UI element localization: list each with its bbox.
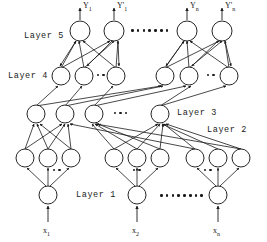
node-layer4-5 (180, 67, 198, 85)
output-label-yn: Yn (190, 1, 199, 12)
node-layer2-8 (209, 149, 227, 167)
node-layer2-7 (186, 149, 204, 167)
ellipsis-layer4-left (97, 74, 105, 76)
node-layer2-4 (105, 149, 123, 167)
ellipsis-layer1 (160, 194, 203, 197)
neural-network-diagram: Layer 5 Layer 4 Layer 3 Layer 2 Layer 1 … (0, 0, 267, 242)
node-layer4-6 (220, 67, 238, 85)
layer-label-3: Layer 3 (177, 108, 217, 118)
output-label-yn-prime: Y'n (225, 1, 235, 12)
node-layer5-1 (70, 21, 90, 41)
node-layer3-3 (85, 105, 103, 123)
node-layer3-1 (27, 105, 45, 123)
layer-label-4: Layer 4 (8, 71, 48, 81)
input-label-xn: xn (213, 226, 220, 237)
node-layer1-1 (39, 186, 57, 204)
node-layer5-3 (177, 21, 197, 41)
node-layer4-3 (107, 67, 125, 85)
ellipsis-layer2-group2 (133, 169, 141, 171)
node-layer4-4 (156, 67, 174, 85)
output-arrow-group (80, 8, 222, 20)
node-layer5-4 (212, 21, 232, 41)
input-arrow-group (48, 206, 218, 222)
node-layer4-1 (52, 67, 70, 85)
ellipsis-layer2-group1 (53, 169, 61, 171)
node-layer2-5 (128, 149, 146, 167)
node-layer3-4 (151, 105, 169, 123)
layer-label-2: Layer 2 (207, 125, 247, 135)
layer-label-5: Layer 5 (24, 31, 64, 41)
output-label-y1-prime: Y'1 (117, 1, 127, 12)
node-layer2-3 (62, 149, 80, 167)
node-layer5-2 (104, 21, 124, 41)
node-layer4-2 (75, 67, 93, 85)
node-layer1-3 (209, 186, 227, 204)
ellipsis-layer2-group3 (204, 169, 212, 171)
input-label-x2: x2 (132, 226, 139, 237)
node-layer3-2 (56, 105, 74, 123)
node-layer2-9 (232, 149, 250, 167)
node-layer2-1 (16, 149, 34, 167)
layer-label-1: Layer 1 (76, 190, 116, 200)
node-layer2-6 (151, 149, 169, 167)
ellipsis-layer3 (114, 112, 127, 114)
node-layer1-2 (128, 186, 146, 204)
ellipsis-layer5 (131, 29, 168, 32)
node-layer2-2 (39, 149, 57, 167)
output-label-y1: Y1 (83, 1, 92, 12)
ellipsis-layer4-right (207, 74, 215, 76)
input-label-x1: x1 (43, 226, 50, 237)
